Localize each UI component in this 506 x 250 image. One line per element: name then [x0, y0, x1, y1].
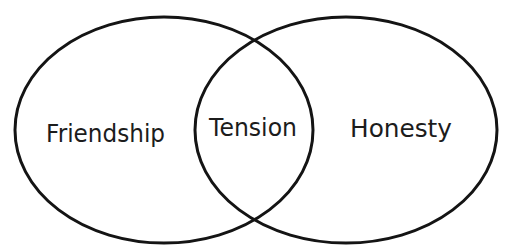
- honesty-label: Honesty: [350, 115, 452, 143]
- tension-label: Tension: [208, 114, 297, 142]
- venn-diagram: Friendship Tension Honesty: [0, 0, 506, 250]
- friendship-label: Friendship: [46, 120, 165, 148]
